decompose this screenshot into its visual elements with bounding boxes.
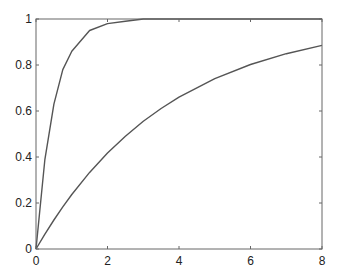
y-tick-label: 0.2: [15, 196, 32, 210]
y-tick-label: 0.4: [15, 150, 32, 164]
y-axis-ticks: 00.20.40.60.81: [15, 12, 322, 256]
line-chart: 02468 00.20.40.60.81: [0, 0, 339, 278]
y-tick-label: 0.6: [15, 104, 32, 118]
x-tick-label: 6: [247, 254, 254, 268]
axes-frame: [36, 19, 322, 249]
x-tick-label: 2: [104, 254, 111, 268]
y-tick-label: 1: [25, 12, 32, 26]
x-axis-ticks: 02468: [33, 19, 326, 268]
axes-box: [36, 19, 322, 249]
y-tick-label: 0.8: [15, 58, 32, 72]
x-tick-label: 4: [176, 254, 183, 268]
x-tick-label: 0: [33, 254, 40, 268]
y-tick-label: 0: [25, 242, 32, 256]
series-line-2: [36, 45, 322, 249]
series-layer: [36, 19, 322, 249]
series-line-1: [36, 19, 322, 249]
x-tick-label: 8: [319, 254, 326, 268]
